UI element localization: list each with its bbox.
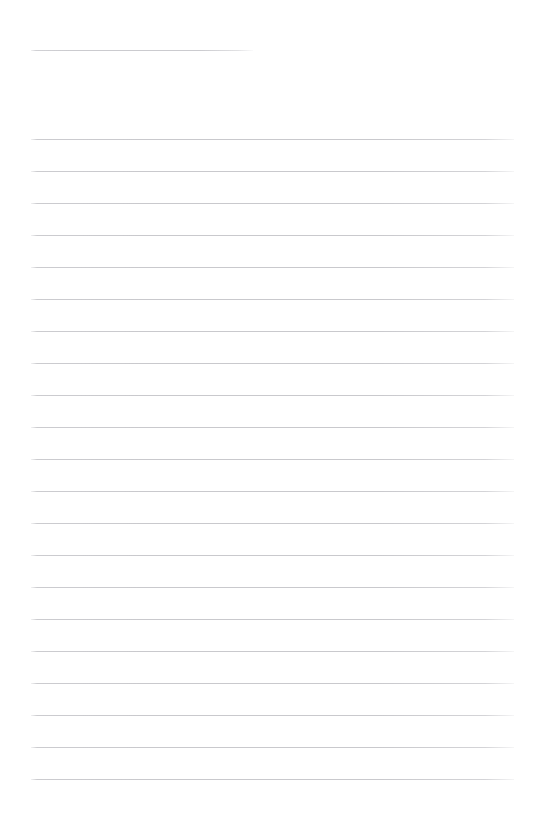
body-rule-line	[31, 363, 514, 364]
body-rule-line	[31, 747, 514, 748]
writing-row[interactable]	[31, 526, 514, 555]
body-rule-line	[31, 139, 514, 140]
writing-row[interactable]	[31, 494, 514, 523]
writing-row[interactable]	[31, 174, 514, 203]
body-rule-line	[31, 267, 514, 268]
writing-row[interactable]	[31, 590, 514, 619]
body-rule-line	[31, 331, 514, 332]
writing-row[interactable]	[31, 334, 514, 363]
writing-row[interactable]	[31, 622, 514, 651]
body-rule-line	[31, 203, 514, 204]
writing-row[interactable]	[31, 142, 514, 171]
writing-row[interactable]	[31, 398, 514, 427]
writing-sheet	[0, 0, 543, 830]
body-rule-line	[31, 299, 514, 300]
title-underline-rule	[31, 50, 253, 51]
writing-row[interactable]	[31, 206, 514, 235]
writing-row[interactable]	[31, 270, 514, 299]
body-rule-line	[31, 523, 514, 524]
body-rule-line	[31, 619, 514, 620]
body-rule-line	[31, 427, 514, 428]
body-rule-line	[31, 171, 514, 172]
body-rule-line	[31, 779, 514, 780]
body-rule-line	[31, 555, 514, 556]
body-rule-line	[31, 491, 514, 492]
writing-row[interactable]	[31, 430, 514, 459]
writing-row[interactable]	[31, 238, 514, 267]
body-rule-line	[31, 587, 514, 588]
writing-row[interactable]	[31, 558, 514, 587]
writing-row[interactable]	[31, 718, 514, 747]
writing-row[interactable]	[31, 110, 514, 139]
writing-row[interactable]	[31, 462, 514, 491]
body-rule-line	[31, 235, 514, 236]
lined-page	[0, 0, 543, 830]
body-rule-line	[31, 395, 514, 396]
title-entry-row[interactable]	[31, 22, 253, 50]
body-rule-line	[31, 715, 514, 716]
body-rule-line	[31, 683, 514, 684]
writing-row[interactable]	[31, 654, 514, 683]
writing-row[interactable]	[31, 750, 514, 779]
body-rule-line	[31, 459, 514, 460]
writing-row[interactable]	[31, 366, 514, 395]
body-rule-line	[31, 651, 514, 652]
writing-row[interactable]	[31, 686, 514, 715]
writing-row[interactable]	[31, 302, 514, 331]
